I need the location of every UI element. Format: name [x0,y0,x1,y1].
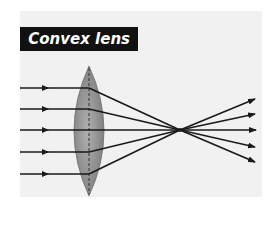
convex-lens-diagram [0,0,274,225]
diverging-rays [180,99,256,162]
lens [74,66,104,196]
focal-point [178,128,182,132]
incoming-ray-arrowheads [42,85,49,177]
